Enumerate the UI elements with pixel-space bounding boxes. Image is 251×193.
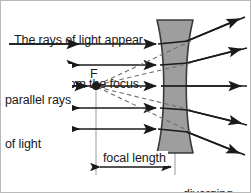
diverging-lens-line-1: diverging	[183, 187, 233, 193]
figure-canvas: The rays of light appear to come from th…	[0, 0, 251, 193]
label-diverging-lens: diverging lens	[183, 158, 233, 193]
parallel-rays-line-1: parallel rays	[5, 93, 71, 108]
outgoing-ray-arrowheads	[187, 19, 241, 153]
label-parallel-rays: parallel rays of light	[4, 64, 72, 180]
label-focal-length: focal length	[101, 151, 168, 166]
caption-line-1: The rays of light appear	[14, 33, 143, 48]
focal-point-label: F	[90, 67, 98, 82]
parallel-rays-line-2: of light	[5, 137, 71, 152]
